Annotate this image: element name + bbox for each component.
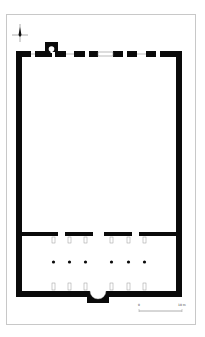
scale-start-label: 0 xyxy=(138,304,140,307)
outer-walls xyxy=(16,51,182,297)
north-pilasters xyxy=(52,237,146,243)
stair-turret xyxy=(45,42,58,53)
figure-frame xyxy=(7,15,196,325)
free-standing-columns xyxy=(52,260,146,263)
north-arrow-icon xyxy=(12,24,28,42)
scale-bar xyxy=(139,309,182,312)
scale-end-label: 10 m xyxy=(178,304,186,307)
south-pilasters xyxy=(52,283,146,290)
apse xyxy=(87,291,109,303)
crosswall xyxy=(16,232,182,236)
floor-plan xyxy=(0,0,205,337)
